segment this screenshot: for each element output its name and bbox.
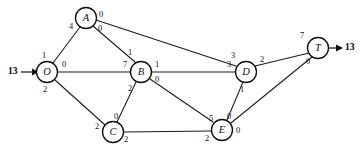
edge-B-C-to-label: 0 bbox=[114, 112, 118, 121]
edge-B-C bbox=[117, 82, 136, 122]
edge-D-T-from-label: 2 bbox=[260, 55, 264, 64]
edge-B-C-from-label: 2 bbox=[128, 84, 132, 93]
node-C-label: C bbox=[109, 126, 117, 137]
edge-D-T-to-label: 7 bbox=[300, 31, 304, 40]
edge-O-A bbox=[53, 27, 80, 63]
diagram-canvas: O A B C D E T bbox=[0, 0, 361, 156]
node-O[interactable]: O bbox=[37, 62, 58, 83]
edge-O-A-to-label: 4 bbox=[69, 22, 74, 31]
edge-B-D-to-label: 3 bbox=[227, 60, 231, 69]
node-O-label: O bbox=[43, 66, 51, 77]
edge-A-B-to-label: 1 bbox=[128, 48, 132, 57]
node-D[interactable]: D bbox=[236, 62, 257, 83]
node-C[interactable]: C bbox=[103, 122, 124, 143]
edge-D-E-from-label: 1 bbox=[240, 85, 244, 94]
edge-E-T-from-label: 0 bbox=[236, 126, 240, 135]
edge-B-E-from-label: 0 bbox=[155, 75, 159, 84]
node-E[interactable]: E bbox=[212, 120, 233, 141]
terminal-label-group: 13 13 bbox=[8, 41, 355, 76]
edge-A-D bbox=[96, 20, 236, 66]
sink-demand-label: 13 bbox=[345, 41, 355, 52]
edge-O-B-to-label: 7 bbox=[123, 60, 127, 69]
edge-C-E bbox=[124, 131, 212, 132]
edge-A-B-from-label: 0 bbox=[98, 24, 102, 33]
edge-A-D-to-label: 3 bbox=[231, 51, 235, 60]
edge-group bbox=[53, 20, 312, 132]
source-supply-label: 13 bbox=[8, 65, 18, 76]
node-T[interactable]: T bbox=[308, 38, 329, 59]
edge-A-D-from-label: 0 bbox=[99, 10, 103, 19]
node-A[interactable]: A bbox=[76, 8, 97, 29]
edge-B-D-from-label: 1 bbox=[155, 60, 159, 69]
node-D-label: D bbox=[241, 66, 250, 77]
node-B[interactable]: B bbox=[131, 62, 152, 83]
edge-label-group: 1 4 0 7 2 2 0 1 0 3 2 0 1 3 0 5 2 2 1 0 … bbox=[42, 10, 310, 144]
edge-C-E-from-label: 2 bbox=[124, 135, 128, 144]
edge-O-B-from-label: 0 bbox=[62, 60, 66, 69]
edge-B-E bbox=[150, 79, 213, 122]
sink-arrow-head-icon bbox=[336, 44, 343, 51]
edge-B-E-to-label: 5 bbox=[209, 114, 213, 123]
edge-O-C-from-label: 2 bbox=[43, 85, 47, 94]
edge-O-A-from-label: 1 bbox=[42, 51, 46, 60]
edge-C-E-to-label: 2 bbox=[205, 134, 209, 143]
node-E-label: E bbox=[218, 124, 226, 135]
edge-E-T-to-label: 0 bbox=[306, 57, 310, 66]
edge-O-C bbox=[55, 80, 105, 125]
node-B-label: B bbox=[138, 66, 145, 77]
network-flow-diagram: O A B C D E T bbox=[0, 0, 361, 156]
node-group: O A B C D E T bbox=[37, 8, 329, 143]
edge-O-C-to-label: 2 bbox=[95, 122, 99, 131]
node-A-label: A bbox=[82, 12, 90, 23]
edge-D-E-to-label: 0 bbox=[227, 112, 231, 121]
